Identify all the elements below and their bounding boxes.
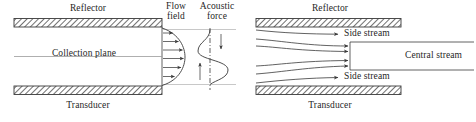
side-stream-bottom-label: Side stream [344, 71, 390, 82]
left-reflector-label: Reflector [70, 3, 106, 14]
side-stream-top-label: Side stream [344, 28, 390, 39]
flow-field-label-line2: field [167, 11, 185, 22]
figure-root: Reflector Transducer Collection plane Fl… [0, 0, 476, 122]
transducer-wall [256, 86, 401, 95]
reflector-wall [256, 19, 401, 28]
acoustic-force-label-line2: force [207, 11, 227, 22]
central-stream-label: Central stream [405, 50, 462, 61]
right-panel: Reflector Transducer Side stream Side st… [238, 0, 476, 122]
right-transducer-label: Transducer [308, 100, 351, 111]
streamline-central-4 [256, 66, 348, 74]
streamline-central-3 [256, 61, 348, 67]
acoustic-force-curve [198, 30, 228, 85]
left-panel: Reflector Transducer Collection plane Fl… [0, 0, 240, 122]
collection-plane-label: Collection plane [52, 48, 116, 59]
left-panel-graphics [0, 0, 240, 122]
acoustic-force-label-line1: Acoustic [200, 1, 235, 12]
flow-field-label-line1: Flow [166, 1, 186, 12]
left-transducer-label: Transducer [66, 100, 109, 111]
reflector-wall [14, 19, 162, 28]
streamline-central-2 [256, 46, 348, 52]
streamlines [256, 30, 348, 83]
streamline-side-bottom [256, 78, 338, 84]
transducer-wall [14, 86, 162, 95]
right-reflector-label: Reflector [312, 3, 348, 14]
right-panel-graphics [238, 0, 476, 122]
streamline-central-1 [256, 39, 348, 46]
streamline-side-top [256, 30, 338, 34]
flow-arrows [163, 33, 184, 77]
